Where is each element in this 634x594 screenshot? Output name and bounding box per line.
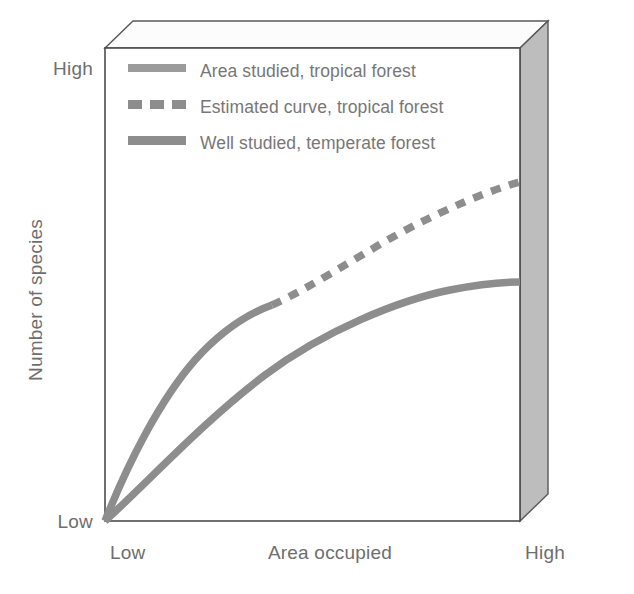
box-top-face bbox=[105, 21, 548, 48]
y-axis-low-label: Low bbox=[58, 511, 94, 532]
y-axis-high-label: High bbox=[53, 58, 93, 79]
x-axis-low-label: Low bbox=[110, 542, 146, 563]
chart-figure: Area studied, tropical forest Estimated … bbox=[0, 0, 634, 594]
species-area-chart: Area studied, tropical forest Estimated … bbox=[0, 0, 634, 594]
solid-swatch-icon bbox=[128, 64, 186, 72]
dashed-swatch-icon bbox=[128, 100, 186, 109]
x-axis-high-label: High bbox=[525, 542, 565, 563]
legend-label: Estimated curve, tropical forest bbox=[200, 97, 443, 117]
box-right-face bbox=[520, 21, 548, 521]
x-axis-title: Area occupied bbox=[268, 542, 392, 563]
legend-label: Well studied, temperate forest bbox=[200, 133, 435, 153]
legend-label: Area studied, tropical forest bbox=[200, 61, 416, 81]
solid-swatch-icon bbox=[128, 136, 186, 145]
y-axis-title: Number of species bbox=[25, 219, 46, 381]
